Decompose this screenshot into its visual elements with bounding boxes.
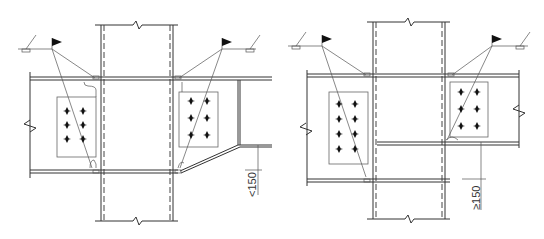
column-break-bottom-left: [95, 217, 178, 225]
break-symbol-right-beam-a: [300, 123, 312, 135]
bolt-plate-right-a: [329, 92, 368, 164]
drawing-canvas: <150 ≥150: [0, 0, 544, 239]
weld-flag-icon: [322, 35, 332, 43]
left-detail: [18, 21, 272, 225]
weld-flag-icon: [52, 38, 62, 46]
bolt-plate-left-b: [179, 92, 218, 147]
bolt-plate-left-a: [57, 97, 96, 157]
column-break-bottom-right: [367, 215, 450, 223]
column-break-top-right: [367, 18, 450, 26]
bolt-group-left-a: [63, 107, 87, 143]
bolt-group-left-b: [187, 97, 211, 139]
right-detail: [288, 18, 530, 223]
connection-drawing: [0, 0, 544, 239]
weld-flag-icon: [492, 35, 502, 43]
bolt-plate-right-b: [450, 82, 488, 137]
dimension-label-left: <150: [246, 172, 258, 197]
weld-flag-icon: [222, 38, 232, 46]
dimension-label-right: ≥150: [470, 186, 482, 210]
column-break-top-left: [95, 21, 178, 29]
